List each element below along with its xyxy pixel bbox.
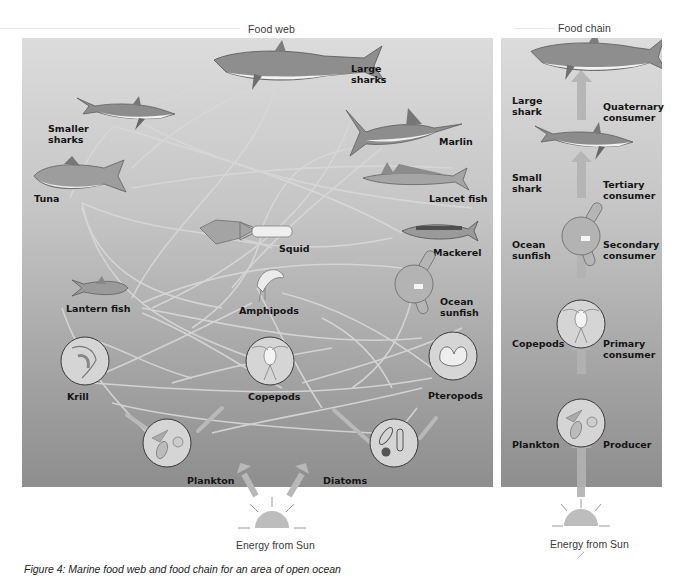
- chain-plankton-icon: [501, 38, 662, 487]
- food-web-title: Food web: [248, 23, 295, 35]
- web-energy-caption: Energy from Sun: [236, 539, 315, 551]
- food-web-panel: Large sharks Smaller sharks Marlin Lance…: [22, 38, 493, 487]
- food-chain-panel: Large shark Quaternary consumer Small sh…: [501, 38, 662, 487]
- label-diatoms: Diatoms: [323, 475, 367, 486]
- chain-label-plankton: Plankton: [512, 439, 560, 450]
- chain-title-rule: [515, 28, 555, 29]
- web-title-rule: [0, 28, 240, 29]
- figure-caption: Figure 4: Marine food web and food chain…: [24, 563, 341, 575]
- diatom-icon: [22, 38, 493, 487]
- chain-energy-caption: Energy from Sun: [550, 538, 629, 550]
- food-chain-title: Food chain: [558, 22, 611, 34]
- chain-role-producer: Producer: [603, 439, 652, 450]
